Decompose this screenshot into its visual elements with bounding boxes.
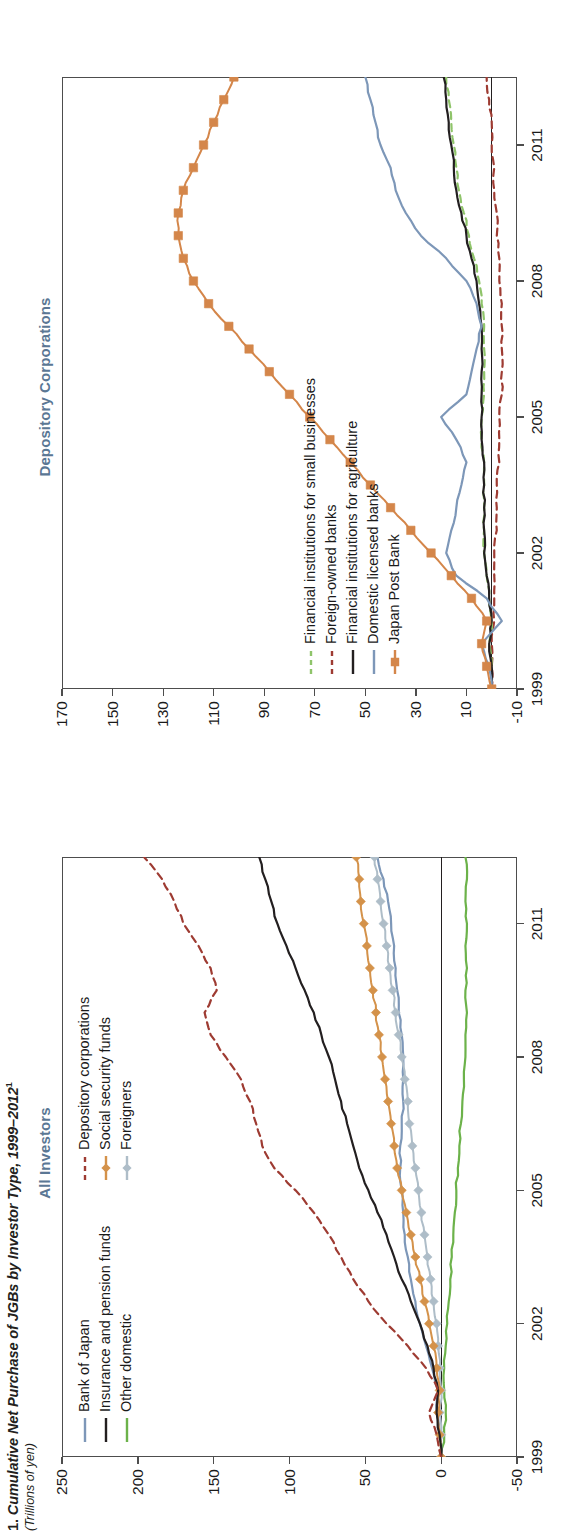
legend-swatch-icon bbox=[367, 649, 381, 675]
series-marker bbox=[379, 919, 388, 928]
series-marker bbox=[377, 1052, 386, 1061]
series-marker bbox=[408, 1141, 417, 1150]
legend-item[interactable]: Social security funds bbox=[95, 997, 116, 1181]
series-marker bbox=[405, 1119, 414, 1128]
series-marker bbox=[352, 852, 361, 861]
series-marker bbox=[179, 254, 187, 262]
legend-swatch-icon bbox=[325, 649, 339, 675]
series-marker bbox=[411, 1252, 420, 1261]
legend-item[interactable]: Insurance and pension funds bbox=[95, 1226, 116, 1443]
series-marker bbox=[477, 639, 485, 647]
series-marker bbox=[397, 1052, 406, 1061]
series-marker bbox=[374, 1030, 383, 1039]
legend-item[interactable]: Bank of Japan bbox=[74, 1226, 95, 1443]
series-marker bbox=[285, 390, 293, 398]
legend-item[interactable]: Domestic licensed banks bbox=[363, 378, 384, 675]
series-marker bbox=[417, 1208, 426, 1217]
series-marker bbox=[387, 1119, 396, 1128]
legend-column: Financial institutions for small busines… bbox=[300, 378, 405, 675]
legend-item[interactable]: Japan Post Bank bbox=[384, 378, 405, 675]
legend-item-label: Foreigners bbox=[119, 1081, 134, 1150]
legend-swatch-icon bbox=[99, 1417, 113, 1443]
series-marker bbox=[376, 897, 385, 906]
series-marker bbox=[467, 594, 475, 602]
legend-item[interactable]: Foreign-owned banks bbox=[321, 378, 342, 675]
series-marker bbox=[406, 1230, 415, 1239]
series-marker bbox=[230, 73, 238, 81]
legend-item-label: Japan Post Bank bbox=[387, 534, 402, 644]
series-marker bbox=[420, 1297, 429, 1306]
series-marker bbox=[209, 118, 217, 126]
figure-root: 1. Cumulative Net Purchase of JGBs by In… bbox=[0, 0, 579, 1537]
series-marker bbox=[397, 1186, 406, 1195]
legend-item-label: Social security funds bbox=[98, 1017, 113, 1150]
legend-swatch-icon bbox=[346, 649, 360, 675]
legend-item-label: Financial institutions for small busines… bbox=[303, 378, 318, 644]
series-marker bbox=[427, 549, 435, 557]
series-marker bbox=[204, 299, 212, 307]
legend-swatch-icon bbox=[120, 1155, 134, 1181]
series-marker bbox=[420, 1230, 429, 1239]
series-marker bbox=[368, 986, 377, 995]
series-marker bbox=[482, 662, 490, 670]
legend-item[interactable]: Financial institutions for small busines… bbox=[300, 378, 321, 675]
legend-item-label: Foreign-owned banks bbox=[324, 505, 339, 644]
series-marker bbox=[373, 875, 382, 884]
series-marker bbox=[482, 617, 490, 625]
legend-item-label: Insurance and pension funds bbox=[98, 1226, 113, 1412]
series-marker bbox=[424, 1319, 433, 1328]
legend-item[interactable]: Other domestic bbox=[116, 1226, 137, 1443]
series-marker bbox=[362, 941, 371, 950]
series-marker bbox=[488, 685, 496, 693]
series-marker bbox=[403, 1097, 412, 1106]
series-marker bbox=[371, 1008, 380, 1017]
series-marker bbox=[245, 345, 253, 353]
series-marker bbox=[189, 163, 197, 171]
series-marker bbox=[383, 1097, 392, 1106]
series-marker bbox=[189, 277, 197, 285]
legend-swatch-icon bbox=[120, 1417, 134, 1443]
series-marker bbox=[411, 1164, 420, 1173]
legend-item-label: Depository corporations bbox=[77, 997, 92, 1150]
series-marker bbox=[385, 964, 394, 973]
legend-item-label: Other domestic bbox=[119, 1314, 134, 1412]
series-marker bbox=[220, 95, 228, 103]
series-layer bbox=[0, 7, 579, 767]
series-marker bbox=[199, 141, 207, 149]
series-line bbox=[441, 857, 467, 1457]
series-marker bbox=[429, 1297, 438, 1306]
series-marker bbox=[365, 964, 374, 973]
panel-all-investors: All Investors 250200150100500-5019992002… bbox=[0, 777, 579, 1529]
series-marker bbox=[359, 919, 368, 928]
series-marker bbox=[415, 1275, 424, 1284]
series-marker bbox=[179, 186, 187, 194]
legend-item[interactable]: Foreigners bbox=[116, 997, 137, 1181]
legend-column: Depository corporationsSocial security f… bbox=[74, 997, 137, 1181]
series-marker bbox=[414, 1186, 423, 1195]
legend-item-label: Domestic licensed banks bbox=[366, 484, 381, 644]
figure-rotation-wrapper: 1. Cumulative Net Purchase of JGBs by In… bbox=[0, 0, 579, 1537]
series-marker bbox=[174, 209, 182, 217]
series-marker bbox=[426, 1275, 435, 1284]
series-marker bbox=[265, 367, 273, 375]
legend-swatch-icon bbox=[78, 1417, 92, 1443]
series-marker bbox=[447, 571, 455, 579]
legend-item[interactable]: Depository corporations bbox=[74, 997, 95, 1181]
series-marker bbox=[423, 1252, 432, 1261]
series-marker bbox=[390, 1141, 399, 1150]
series-marker bbox=[356, 897, 365, 906]
legend-swatch-icon bbox=[388, 649, 402, 675]
panel-depository-corporations: Depository Corporations 1701501301109070… bbox=[0, 7, 579, 767]
legend-swatch-icon bbox=[304, 649, 318, 675]
series-marker bbox=[380, 1075, 389, 1084]
series-marker bbox=[400, 1075, 409, 1084]
legend-item-label: Financial institutions for agriculture bbox=[345, 421, 360, 644]
series-marker bbox=[407, 526, 415, 534]
legend-column: Bank of JapanInsurance and pension funds… bbox=[74, 1226, 137, 1443]
legend-item-label: Bank of Japan bbox=[77, 1319, 92, 1412]
series-marker bbox=[355, 875, 364, 884]
legend-item[interactable]: Financial institutions for agriculture bbox=[342, 378, 363, 675]
series-marker bbox=[382, 941, 391, 950]
panels-container: All Investors 250200150100500-5019992002… bbox=[0, 0, 579, 1537]
legend-swatch-icon bbox=[78, 1155, 92, 1181]
